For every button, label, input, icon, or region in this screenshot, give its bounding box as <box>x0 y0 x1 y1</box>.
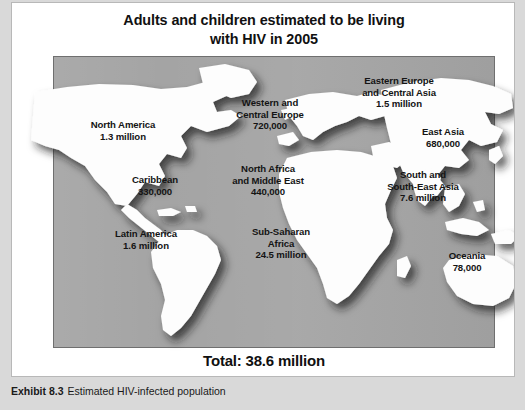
region-label-caribbean: Caribbean 330,000 <box>95 174 215 197</box>
region-value: 1.5 million <box>325 98 473 110</box>
exhibit-caption: Exhibit 8.3Estimated HIV-infected popula… <box>11 385 511 397</box>
landmass-indonesia <box>445 218 489 236</box>
region-name-line-1: Western and <box>205 97 335 109</box>
region-label-north-africa-middle-east: North Africa and Middle East 440,000 <box>201 163 335 198</box>
region-value: 78,000 <box>408 262 515 274</box>
exhibit-caption-text: Estimated HIV-infected population <box>68 385 226 397</box>
region-value: 24.5 million <box>217 249 345 261</box>
region-value: 720,000 <box>205 120 335 132</box>
figure-panel: Adults and children estimated to be livi… <box>11 2 515 377</box>
figure-title: Adults and children estimated to be livi… <box>12 11 515 49</box>
region-value: 680,000 <box>383 138 503 150</box>
region-label-sub-saharan-africa: Sub-Saharan Africa 24.5 million <box>217 226 345 261</box>
region-name-line-1: South and <box>353 169 493 181</box>
region-label-oceania: Oceania 78,000 <box>408 250 515 273</box>
region-name: Oceania <box>408 250 515 262</box>
region-name-line-2: and Central Asia <box>325 87 473 99</box>
region-name-line-2: South-East Asia <box>353 181 493 193</box>
region-value: 440,000 <box>201 186 335 198</box>
region-name-line-1: Sub-Saharan <box>217 226 345 238</box>
figure-title-line-2: with HIV in 2005 <box>12 30 515 49</box>
region-name-line-2: Africa <box>217 238 345 250</box>
region-name: Caribbean <box>95 174 215 186</box>
region-label-western-central-europe: Western and Central Europe 720,000 <box>205 97 335 132</box>
region-value: 1.6 million <box>81 240 211 252</box>
region-name-line-2: Central Europe <box>205 109 335 121</box>
region-label-east-asia: East Asia 680,000 <box>383 126 503 149</box>
landmass-caribbean-island-2 <box>185 206 197 212</box>
region-name-line-2: and Middle East <box>201 175 335 187</box>
region-value: 7.6 million <box>353 192 493 204</box>
landmass-new-guinea <box>491 230 515 244</box>
region-name-line-1: Eastern Europe <box>325 75 473 87</box>
total-hiv-population: Total: 38.6 million <box>12 352 515 369</box>
exhibit-number: Exhibit 8.3 <box>11 385 64 397</box>
figure-title-line-1: Adults and children estimated to be livi… <box>12 11 515 30</box>
region-name: Latin America <box>81 228 211 240</box>
region-value: 1.3 million <box>53 131 193 143</box>
region-label-north-america: North America 1.3 million <box>53 119 193 142</box>
world-map: North America 1.3 million Caribbean 330,… <box>53 56 495 348</box>
region-name: North America <box>53 119 193 131</box>
region-value: 330,000 <box>95 186 215 198</box>
landmass-iberia <box>277 132 299 146</box>
landmass-caribbean-islands <box>157 208 181 216</box>
region-label-eastern-europe-central-asia: Eastern Europe and Central Asia 1.5 mill… <box>325 75 473 110</box>
region-name: East Asia <box>383 126 503 138</box>
region-name-line-1: North Africa <box>201 163 335 175</box>
region-label-latin-america: Latin America 1.6 million <box>81 228 211 251</box>
region-label-south-south-east-asia: South and South-East Asia 7.6 million <box>353 169 493 204</box>
